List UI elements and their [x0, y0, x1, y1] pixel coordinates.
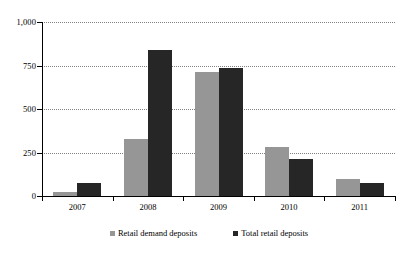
- x-axis-tick-label: 2007: [42, 202, 113, 212]
- x-axis-tick: [254, 196, 255, 201]
- x-axis-tick-label: 2010: [254, 202, 325, 212]
- gridline: [42, 22, 395, 23]
- x-axis-tick: [183, 196, 184, 201]
- y-axis-tick-label: 250: [0, 149, 36, 158]
- bar: [148, 50, 172, 196]
- bar: [195, 72, 219, 196]
- bar: [289, 159, 313, 196]
- bar: [77, 183, 101, 196]
- gridline: [42, 66, 395, 67]
- bar: [336, 179, 360, 196]
- x-axis-tick-label: 2009: [183, 202, 254, 212]
- legend-swatch-icon: [233, 231, 238, 236]
- bar-chart: 02505007501,000 20072008200920102011 Ret…: [0, 0, 418, 254]
- legend-item-retail-demand-deposits: Retail demand deposits: [110, 229, 197, 238]
- bar: [360, 183, 384, 196]
- x-axis-tick-label: 2008: [113, 202, 184, 212]
- legend-label: Total retail deposits: [241, 229, 308, 238]
- x-axis-tick-label: 2011: [324, 202, 395, 212]
- y-axis-tick-label: 750: [0, 62, 36, 71]
- bar: [219, 68, 243, 196]
- x-axis-tick: [324, 196, 325, 201]
- y-axis-tick-label: 500: [0, 105, 36, 114]
- bar: [265, 147, 289, 196]
- x-axis-tick: [42, 196, 43, 201]
- x-axis-tick: [395, 196, 396, 201]
- y-axis-tick-label: 1,000: [0, 18, 36, 27]
- x-axis-tick: [113, 196, 114, 201]
- plot-area: [42, 22, 395, 196]
- y-axis-line: [42, 22, 43, 196]
- x-axis-line: [42, 196, 395, 197]
- legend-swatch-icon: [110, 231, 115, 236]
- legend-label: Retail demand deposits: [118, 229, 197, 238]
- chart-legend: Retail demand deposits Total retail depo…: [0, 229, 418, 238]
- legend-item-total-retail-deposits: Total retail deposits: [233, 229, 308, 238]
- bar: [124, 139, 148, 196]
- y-axis-tick-label: 0: [0, 192, 36, 201]
